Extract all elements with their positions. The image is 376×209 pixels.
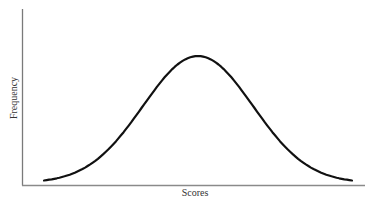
y-axis-label: Frequency bbox=[8, 77, 19, 119]
x-axis-label: Scores bbox=[160, 187, 230, 198]
bell-curve-chart bbox=[0, 0, 376, 209]
distribution-curve bbox=[44, 56, 352, 181]
